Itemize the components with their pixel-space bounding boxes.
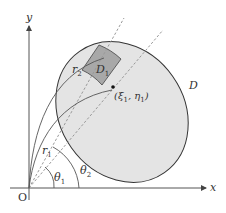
region-d-label: D (189, 80, 198, 91)
polar-region-diagram (0, 0, 226, 213)
point-label: (ξ1, η1) (114, 91, 149, 104)
angle-arc-theta1 (45, 167, 54, 188)
point-xi-eta (111, 85, 115, 89)
theta1-label: θ1 (54, 172, 65, 186)
r2-label: r2 (72, 64, 82, 78)
origin-label: O (18, 192, 27, 203)
y-axis-label: y (26, 12, 32, 23)
r1-label: r1 (42, 145, 52, 159)
x-axis-label: x (210, 182, 216, 193)
theta2-label: θ2 (80, 165, 91, 179)
subregion-d1-label: D1 (96, 64, 109, 78)
